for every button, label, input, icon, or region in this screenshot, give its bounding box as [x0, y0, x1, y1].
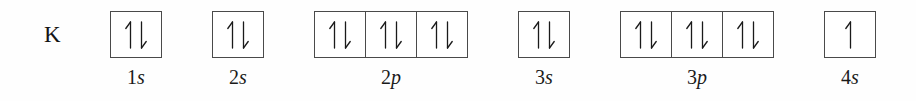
electron-spin-pair: [315, 12, 365, 57]
electron-spin-pair: [672, 12, 722, 57]
subshell-letter: p: [391, 66, 401, 88]
orbital-box-row: [212, 11, 264, 58]
spin-up-arrow-icon: [737, 20, 748, 50]
subshell-letter: s: [851, 66, 859, 88]
subshell-label: 2p: [314, 67, 468, 87]
orbital-box: [722, 11, 774, 58]
orbital-box: [416, 11, 468, 58]
subshell-letter: s: [137, 66, 145, 88]
orbital-box-row: [620, 11, 774, 58]
spin-down-arrow-icon: [136, 20, 147, 50]
spin-down-arrow-icon: [391, 20, 402, 50]
subshell-group-3p: 3p: [620, 11, 774, 87]
spin-down-arrow-icon: [340, 20, 351, 50]
electron-spin-pair: [417, 12, 467, 57]
electron-spin-pair: [111, 12, 161, 57]
orbital-box: [620, 11, 672, 58]
spin-up-arrow-icon: [533, 20, 544, 50]
electron-spin-pair: [519, 12, 569, 57]
principal-quantum-number: 1: [127, 66, 137, 88]
electron-spin-pair: [213, 12, 263, 57]
principal-quantum-number: 3: [535, 66, 545, 88]
spin-down-arrow-icon: [544, 20, 555, 50]
orbital-box: [518, 11, 570, 58]
orbital-box: [314, 11, 366, 58]
orbital-box: [110, 11, 162, 58]
spin-up-arrow-icon: [380, 20, 391, 50]
orbital-box-row: [518, 11, 570, 58]
subshell-group-4s: 4s: [824, 11, 876, 87]
subshell-label: 2s: [212, 67, 264, 87]
subshell-label: 4s: [824, 67, 876, 87]
spin-up-arrow-icon: [845, 20, 856, 50]
subshell-group-2p: 2p: [314, 11, 468, 87]
subshell-label: 3p: [620, 67, 774, 87]
spin-down-arrow-icon: [748, 20, 759, 50]
orbital-diagram-figure: K 1s2s2p3s3p4s: [0, 0, 916, 101]
electron-spin-pair: [366, 12, 416, 57]
spin-up-arrow-icon: [635, 20, 646, 50]
spin-up-arrow-icon: [125, 20, 136, 50]
orbital-box: [824, 11, 876, 58]
subshell-group-2s: 2s: [212, 11, 264, 87]
spin-down-arrow-icon: [697, 20, 708, 50]
subshell-letter: p: [697, 66, 707, 88]
spin-up-arrow-icon: [227, 20, 238, 50]
electron-spin-pair: [723, 12, 773, 57]
spin-down-arrow-icon: [646, 20, 657, 50]
subshell-label: 3s: [518, 67, 570, 87]
orbital-box-row: [824, 11, 876, 58]
electron-spin-pair: [825, 12, 875, 57]
subshell-group-3s: 3s: [518, 11, 570, 87]
orbital-box: [671, 11, 723, 58]
spin-up-arrow-icon: [686, 20, 697, 50]
orbital-box-row: [314, 11, 468, 58]
subshell-letter: s: [239, 66, 247, 88]
subshell-group-1s: 1s: [110, 11, 162, 87]
spin-down-arrow-icon: [442, 20, 453, 50]
principal-quantum-number: 2: [381, 66, 391, 88]
spin-up-arrow-icon: [329, 20, 340, 50]
spin-down-arrow-icon: [238, 20, 249, 50]
subshell-label: 1s: [110, 67, 162, 87]
element-symbol-label: K: [44, 22, 61, 48]
principal-quantum-number: 3: [687, 66, 697, 88]
subshell-letter: s: [545, 66, 553, 88]
principal-quantum-number: 2: [229, 66, 239, 88]
electron-spin-pair: [621, 12, 671, 57]
orbital-box: [365, 11, 417, 58]
orbital-box-row: [110, 11, 162, 58]
principal-quantum-number: 4: [841, 66, 851, 88]
orbital-box: [212, 11, 264, 58]
spin-up-arrow-icon: [431, 20, 442, 50]
